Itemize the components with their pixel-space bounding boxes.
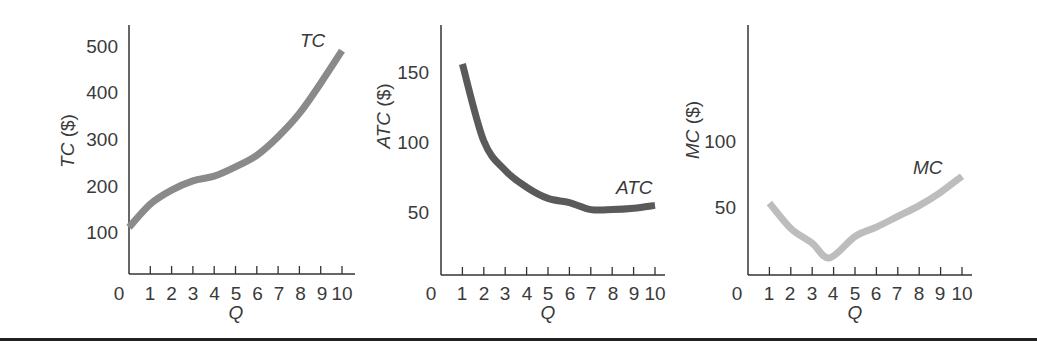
mc-y-axis-label-unit: ($) — [682, 101, 703, 130]
x-tick-label: 9 — [629, 284, 640, 303]
atc-y-tick-label: 150 — [390, 63, 429, 82]
x-tick-label: 9 — [935, 284, 946, 303]
tc-y-tick-label: 300 — [78, 130, 118, 149]
x-tick-label: 5 — [543, 284, 554, 303]
x-tick-label: 1 — [457, 284, 468, 303]
x-tick-label: 3 — [188, 284, 199, 303]
tc-y-axis-label-unit: ($) — [57, 114, 78, 143]
x-tick-label: 3 — [500, 284, 511, 303]
x-tick-label: 6 — [252, 284, 263, 303]
atc-y-tick-label: 100 — [390, 133, 429, 152]
tc-y-tick-label: 500 — [78, 37, 118, 56]
atc-curve-label: ATC — [616, 178, 653, 197]
tc-y-axis-label: TC ($) — [58, 114, 77, 168]
cost-curves-figure: TC ($) 500 400 300 200 100 TC Q 0 1 2 3 … — [0, 0, 1037, 345]
mc-y-axis-label: MC ($) — [683, 101, 702, 159]
tc-curve — [129, 51, 342, 228]
x-tick-label: 2 — [785, 284, 796, 303]
x-tick-label: 8 — [608, 284, 619, 303]
x-tick-label: 9 — [317, 284, 328, 303]
mc-curve-label: MC — [913, 158, 943, 177]
tc-y-axis-label-symbol: TC — [57, 143, 78, 168]
x-tick-label: 10 — [644, 284, 665, 303]
x-tick-label: 7 — [892, 284, 903, 303]
mc-y-tick-label: 100 — [700, 132, 736, 151]
x-tick-label: 0 — [426, 284, 437, 303]
x-tick-label: 4 — [522, 284, 533, 303]
x-tick-label: 4 — [209, 284, 220, 303]
atc-y-axis-label-unit: ($) — [373, 83, 394, 112]
tc-y-tick-label: 400 — [78, 83, 118, 102]
x-tick-label: 2 — [166, 284, 177, 303]
x-tick-label: 10 — [331, 284, 352, 303]
x-tick-label: 5 — [850, 284, 861, 303]
tc-curve-label: TC — [300, 31, 325, 50]
atc-y-tick-label: 50 — [390, 203, 429, 222]
plot-canvas — [0, 0, 1037, 345]
mc-x-axis-label: Q — [848, 303, 863, 322]
mc-y-tick-label: 50 — [700, 198, 736, 217]
x-tick-label: 7 — [274, 284, 285, 303]
tc-y-tick-label: 100 — [78, 223, 118, 242]
x-tick-label: 4 — [828, 284, 839, 303]
tc-x-axis-label: Q — [229, 303, 244, 322]
x-tick-label: 10 — [951, 284, 972, 303]
x-tick-label: 8 — [914, 284, 925, 303]
x-tick-label: 0 — [732, 284, 743, 303]
x-tick-label: 7 — [586, 284, 597, 303]
x-tick-label: 8 — [295, 284, 306, 303]
x-tick-label: 3 — [807, 284, 818, 303]
x-tick-label: 2 — [479, 284, 490, 303]
x-tick-label: 6 — [871, 284, 882, 303]
mc-curve — [769, 176, 962, 258]
x-tick-label: 1 — [764, 284, 775, 303]
tc-y-tick-label: 200 — [78, 177, 118, 196]
atc-x-axis-label: Q — [541, 303, 556, 322]
x-tick-label: 1 — [145, 284, 156, 303]
x-tick-label: 0 — [114, 284, 125, 303]
x-tick-label: 5 — [231, 284, 242, 303]
bottom-rule — [0, 338, 1037, 341]
x-tick-label: 6 — [565, 284, 576, 303]
